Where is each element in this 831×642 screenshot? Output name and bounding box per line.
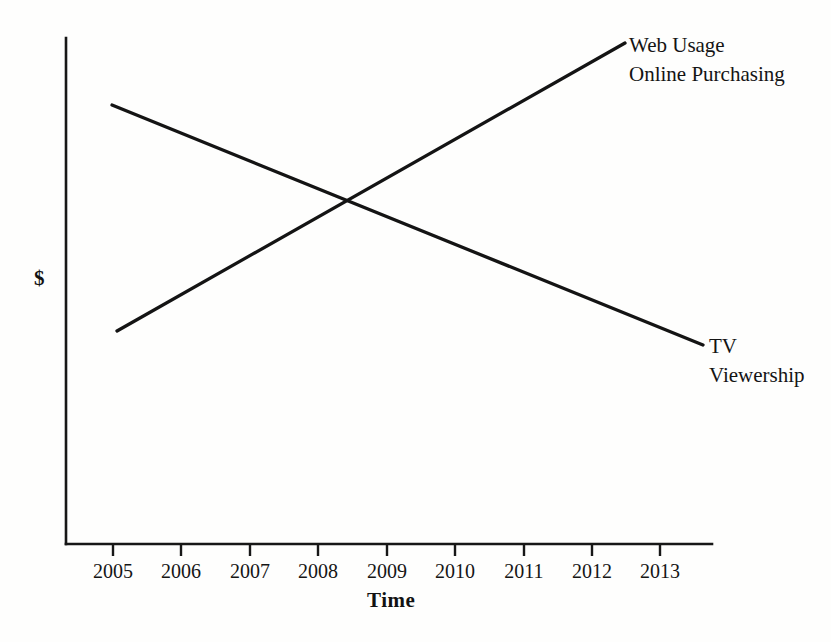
chart-canvas: 2005 2006 2007 2008 2009 2010 2011 2012 …	[0, 0, 831, 642]
x-axis-title: Time	[367, 588, 415, 613]
series-label-tv-line1: TV	[709, 332, 805, 361]
x-tick-label-2011: 2011	[489, 560, 559, 583]
x-tick-label-2012: 2012	[557, 560, 627, 583]
x-tick-label-2013: 2013	[625, 560, 695, 583]
series-label-web-usage-line1: Web Usage	[629, 31, 785, 60]
y-axis-title: $	[34, 266, 45, 291]
chart-plot-area	[0, 0, 831, 642]
x-tick-label-2008: 2008	[283, 560, 353, 583]
series-label-tv-viewership: TV Viewership	[709, 332, 805, 390]
series-label-tv-line2: Viewership	[709, 361, 805, 390]
series-label-web-usage-line2: Online Purchasing	[629, 60, 785, 89]
chart-series-lines	[112, 43, 703, 345]
x-tick-label-2005: 2005	[78, 560, 148, 583]
series-label-web-usage: Web Usage Online Purchasing	[629, 31, 785, 89]
x-axis-ticks	[113, 544, 660, 556]
chart-axes	[66, 38, 712, 544]
x-tick-label-2007: 2007	[215, 560, 285, 583]
series-line-tv-viewership	[112, 105, 703, 345]
series-line-web-usage-online-purchasing	[117, 43, 625, 331]
x-tick-label-2010: 2010	[420, 560, 490, 583]
x-tick-label-2006: 2006	[146, 560, 216, 583]
x-tick-label-2009: 2009	[352, 560, 422, 583]
